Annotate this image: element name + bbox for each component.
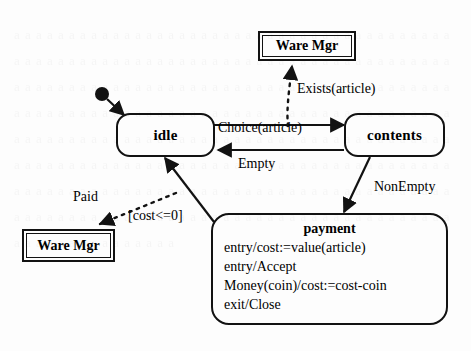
edge-contents-to-ware-mgr-top — [287, 66, 292, 126]
edge-label-cost-guard: [cost<=0] — [128, 209, 183, 223]
uml-state-diagram: a a a a a a a a a a a a a a a a a a a a … — [0, 0, 471, 351]
edge-label-empty: Empty — [238, 157, 275, 171]
state-payment-label: payment — [213, 221, 446, 237]
state-payment[interactable]: payment entry/cost:=value(article) entry… — [211, 213, 448, 325]
ware-mgr-bottom-label: Ware Mgr — [37, 238, 99, 254]
edge-label-choice: Choice(article) — [218, 121, 302, 135]
payment-activity-line: Money(coin)/cost:=cost-coin — [224, 276, 446, 295]
edge-contents-to-payment — [344, 157, 370, 212]
state-idle-label: idle — [153, 127, 177, 144]
state-contents[interactable]: contents — [344, 113, 445, 157]
ware-mgr-top-box[interactable]: Ware Mgr — [258, 31, 356, 61]
ware-mgr-top-label: Ware Mgr — [276, 38, 338, 54]
state-contents-label: contents — [367, 127, 422, 144]
payment-activity-line: exit/Close — [224, 295, 446, 314]
edge-initial-to-idle — [107, 99, 124, 115]
edge-label-exists: Exists(article) — [297, 82, 376, 96]
state-idle[interactable]: idle — [116, 113, 215, 157]
ware-mgr-bottom-box[interactable]: Ware Mgr — [22, 229, 115, 262]
edge-label-paid: Paid — [73, 190, 98, 204]
edge-label-nonempty: NonEmpty — [374, 180, 435, 194]
payment-activity-line: entry/cost:=value(article) — [224, 238, 446, 257]
state-payment-activities: entry/cost:=value(article) entry/Accept … — [213, 238, 446, 314]
payment-activity-line: entry/Accept — [224, 257, 446, 276]
initial-state-dot — [95, 87, 109, 101]
